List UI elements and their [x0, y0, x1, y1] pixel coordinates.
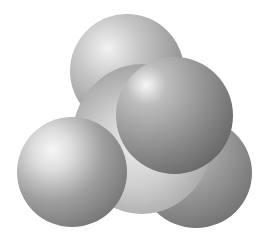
molecule-model	[0, 0, 273, 252]
front-right-sphere	[116, 57, 233, 174]
left-sphere	[17, 117, 127, 227]
